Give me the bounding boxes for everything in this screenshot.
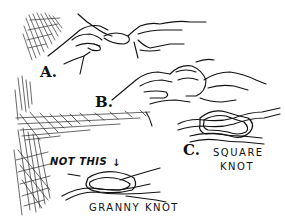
step-c-label: C.: [183, 143, 200, 158]
not-this-warning: NOT THIS: [50, 157, 107, 167]
granny-knot-caption: GRANNY KNOT: [89, 203, 179, 213]
hatching-top-left: [23, 13, 62, 60]
step-a-hands: [48, 14, 206, 74]
illustration-drawing: [0, 0, 285, 223]
step-b-label: B.: [95, 95, 113, 110]
down-arrow-icon: ↓: [112, 158, 120, 168]
square-knot-illustration: A. B. C. SQUARE KNOT NOT THIS ↓ GRANNY K…: [0, 0, 285, 223]
square-knot-caption-line1: SQUARE: [213, 148, 264, 158]
square-knot-drawing: [178, 108, 280, 144]
step-b-hands: [112, 59, 266, 126]
step-a-label: A.: [40, 65, 57, 80]
square-knot-caption-line2: KNOT: [220, 162, 254, 172]
granny-knot-drawing: [62, 168, 166, 202]
